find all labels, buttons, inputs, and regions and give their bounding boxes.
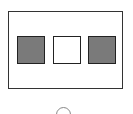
empty-square-middle	[53, 36, 81, 64]
arc-indicator-icon	[56, 107, 71, 114]
filled-square-left	[17, 36, 45, 64]
filled-square-right	[88, 36, 116, 64]
